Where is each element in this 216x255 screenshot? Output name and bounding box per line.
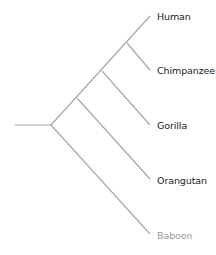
taxon-label-gorilla: Gorilla <box>157 120 187 132</box>
baboon-branch <box>51 125 150 234</box>
taxon-label-orangutan: Orangutan <box>157 175 207 187</box>
orangutan-branch <box>77 98 150 179</box>
taxon-label-baboon: Baboon <box>157 230 192 242</box>
gorilla-branch <box>102 71 150 125</box>
taxon-label-chimpanzee: Chimpanzee <box>157 65 215 77</box>
chimpanzee-branch <box>127 43 150 70</box>
taxon-label-human: Human <box>157 11 191 23</box>
